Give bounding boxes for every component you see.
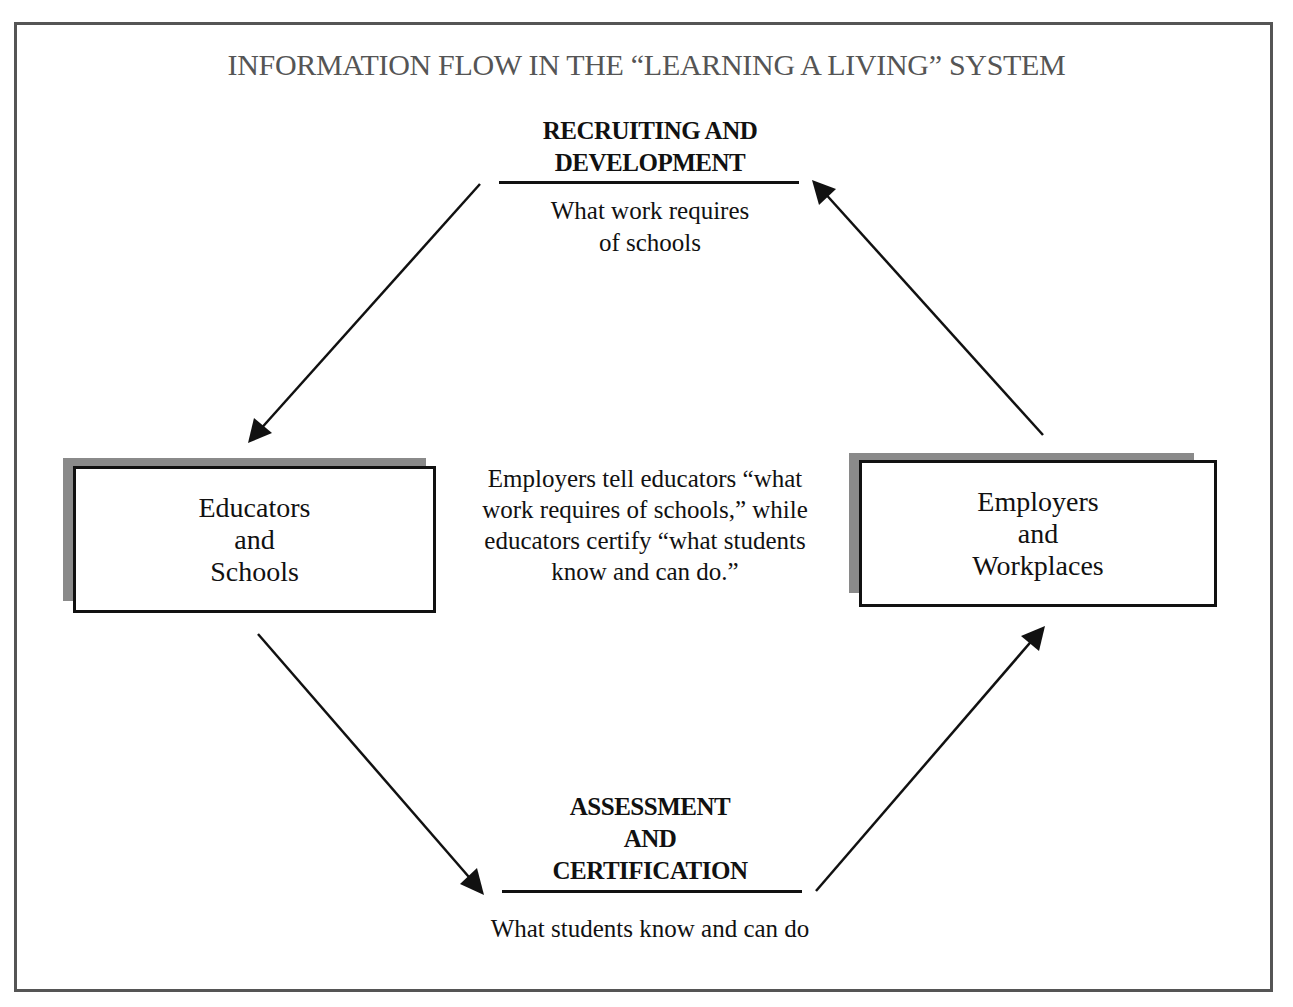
flow-arrows (0, 0, 1293, 1007)
arrow-recruiting-to-educators-icon (248, 184, 480, 443)
arrow-educators-to-assessment-icon (258, 634, 484, 895)
arrow-assessment-to-employers-icon (816, 626, 1045, 891)
arrow-employers-to-recruiting-icon (812, 180, 1043, 435)
